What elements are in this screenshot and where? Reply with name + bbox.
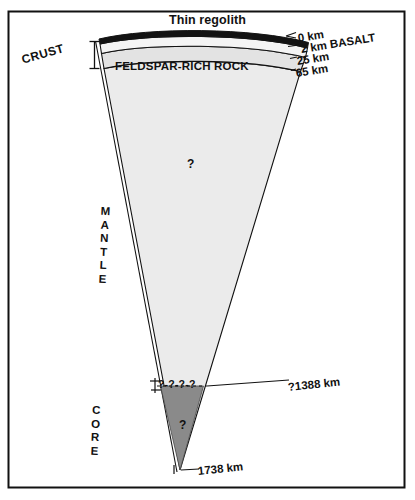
- mantle-letter-1: A: [100, 218, 109, 232]
- mantle-letter-4: L: [99, 259, 107, 273]
- core-letter-3: E: [90, 444, 98, 458]
- mantle-letter-5: E: [98, 272, 106, 286]
- mantle-letter-2: N: [100, 232, 109, 246]
- page-title: Thin regolith: [0, 14, 415, 27]
- mantle-letter-0: M: [100, 205, 110, 219]
- core-question-mark: ?: [179, 419, 186, 431]
- core-letter-0: C: [92, 404, 101, 418]
- core-letter-1: O: [91, 417, 101, 431]
- core-boundary-query-marks: ?-?-?-?: [158, 379, 196, 390]
- diagram-canvas: [0, 0, 415, 500]
- feldspar-rich-rock-label: FELDSPAR-RICH ROCK: [115, 61, 249, 73]
- mantle-question-mark: ?: [187, 158, 194, 170]
- lunar-interior-wedge: [0, 0, 415, 500]
- mantle-letter-3: T: [100, 245, 108, 259]
- core-letter-2: R: [91, 431, 100, 445]
